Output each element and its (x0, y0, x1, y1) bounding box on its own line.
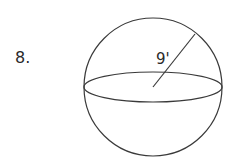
radius-label: 9' (156, 50, 170, 68)
sphere-diagram: 9' (0, 0, 235, 167)
